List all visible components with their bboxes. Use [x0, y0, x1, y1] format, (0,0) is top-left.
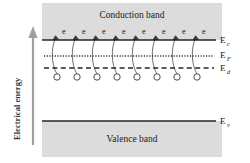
- empty-circle-icon: [174, 74, 180, 80]
- conduction-band-region: [42, 3, 222, 40]
- electron-label: e: [122, 27, 126, 36]
- level-symbol-Ec-base: E: [220, 35, 226, 45]
- electron-label: e: [102, 27, 106, 36]
- empty-circle-icon: [194, 74, 200, 80]
- up-arrow-icon: [28, 26, 37, 38]
- conduction-band-label: Conduction band: [99, 10, 164, 20]
- valence-band-label: Valence band: [107, 134, 158, 144]
- level-symbol-Ed: E d: [220, 63, 231, 75]
- level-symbol-Ed-base: E: [220, 63, 226, 73]
- level-symbol-EF-sub: F: [226, 55, 231, 62]
- electron-label: e: [82, 27, 86, 36]
- donor-sites: [54, 74, 200, 80]
- level-symbol-EF: E F: [220, 50, 231, 62]
- empty-circle-icon: [134, 74, 140, 80]
- empty-circle-icon: [54, 74, 60, 80]
- band-diagram-figure: Electrical energy Conduction band: [0, 0, 250, 163]
- level-symbol-Ed-sub: d: [227, 68, 231, 75]
- level-symbol-Ev-base: E: [220, 116, 226, 126]
- empty-circle-icon: [74, 74, 80, 80]
- level-symbol-Ev: E v: [220, 116, 230, 128]
- electron-label: e: [182, 27, 186, 36]
- energy-axis: [28, 26, 37, 145]
- electron-label: e: [142, 27, 146, 36]
- level-symbols: E c E F E d E v: [220, 35, 231, 128]
- level-symbol-EF-base: E: [220, 50, 226, 60]
- empty-circle-icon: [154, 74, 160, 80]
- electron-label: e: [62, 27, 66, 36]
- level-symbol-Ec-sub: c: [227, 40, 230, 47]
- empty-circle-icon: [114, 74, 120, 80]
- electron-label: e: [202, 27, 206, 36]
- level-symbol-Ev-sub: v: [227, 121, 230, 128]
- level-symbol-Ec: E c: [220, 35, 230, 47]
- electron-label: e: [162, 27, 166, 36]
- energy-axis-label: Electrical energy: [12, 77, 22, 140]
- empty-circle-icon: [94, 74, 100, 80]
